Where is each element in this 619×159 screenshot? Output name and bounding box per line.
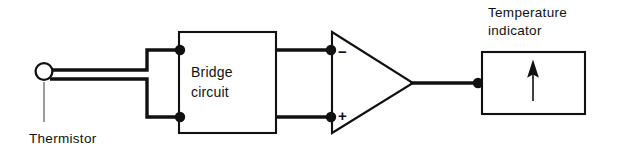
bridge-circuit-block: [179, 32, 276, 133]
temperature-indicator-label-line2: indicator: [488, 23, 542, 38]
amp-noninverting-input-dot: [326, 112, 336, 122]
wire-thermistor-to-bridge-bottom: [50, 79, 182, 117]
amp-inverting-input-dot: [326, 45, 336, 55]
thermistor-symbol: [36, 63, 53, 80]
diagram-canvas: Thermistor Bridge circuit − + Temperatur…: [0, 0, 619, 159]
wire-thermistor-to-bridge-top: [50, 50, 182, 70]
bridge-input-terminal-top-dot: [175, 45, 185, 55]
bridge-input-terminal-bottom-dot: [175, 112, 185, 122]
thermistor-label: Thermistor: [29, 131, 97, 146]
bridge-circuit-label-line1: Bridge: [191, 64, 233, 80]
temperature-indicator-label-line1: Temperature: [488, 5, 567, 20]
amp-inverting-input-label: −: [338, 43, 347, 60]
bridge-circuit-label-line2: circuit: [191, 84, 229, 100]
circuit-diagram: Thermistor Bridge circuit − + Temperatur…: [0, 0, 619, 159]
amp-noninverting-input-label: +: [338, 107, 347, 124]
